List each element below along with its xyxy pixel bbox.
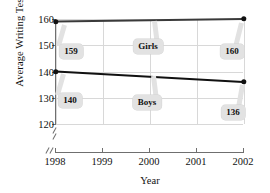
x-axis-line: 1998 1999 2000 2001 2002 (55, 152, 243, 153)
x-tick-label-2000: 2000 (139, 156, 160, 167)
y-tick-label-140: 140 (38, 66, 54, 77)
callout-tail-160 (234, 22, 244, 45)
x-tick-label-2002: 2002 (233, 156, 254, 167)
y-tick-label-130: 130 (38, 92, 54, 103)
gridline-x-2001 (197, 19, 198, 124)
y-tick-label-150: 150 (38, 40, 54, 51)
x-tick-label-1999: 1999 (92, 156, 113, 167)
x-tickmark-2001 (196, 148, 197, 153)
x-tickmark-2002 (243, 148, 244, 153)
callout-boys-2002-value: 136 (221, 105, 245, 120)
boys-point-1998 (53, 69, 58, 74)
x-tick-label-1998: 1998 (45, 156, 66, 167)
callout-boys-1998-value: 140 (58, 93, 82, 108)
gridline-x-1999 (103, 19, 104, 124)
girls-point-1998 (53, 19, 58, 24)
y-tick-label-120: 120 (38, 119, 54, 130)
x-tickmark-1998 (55, 148, 56, 153)
girls-point-2002 (241, 16, 246, 21)
x-tick-label-2001: 2001 (186, 156, 207, 167)
callout-girls-series: Girls (133, 39, 163, 54)
x-tickmark-2000 (149, 148, 150, 153)
callout-boys-series: Boys (133, 95, 162, 110)
x-axis-break-mark-right (49, 147, 53, 154)
callout-girls-1998-value: 159 (59, 44, 83, 59)
plot-area: 160 150 140 130 120 159 Girls 160 (55, 19, 243, 124)
callout-girls-2002-value: 160 (220, 44, 244, 59)
x-axis-title: Year (55, 175, 245, 186)
x-tickmark-1999 (102, 148, 103, 153)
y-tick-label-160: 160 (38, 14, 54, 25)
boys-point-2002 (241, 79, 246, 84)
y-axis-title: Average Writing Test Score (14, 0, 25, 101)
writing-test-score-line-chart: Average Writing Test Score 160 150 140 1… (0, 0, 270, 193)
gridline-y-120 (56, 124, 243, 125)
